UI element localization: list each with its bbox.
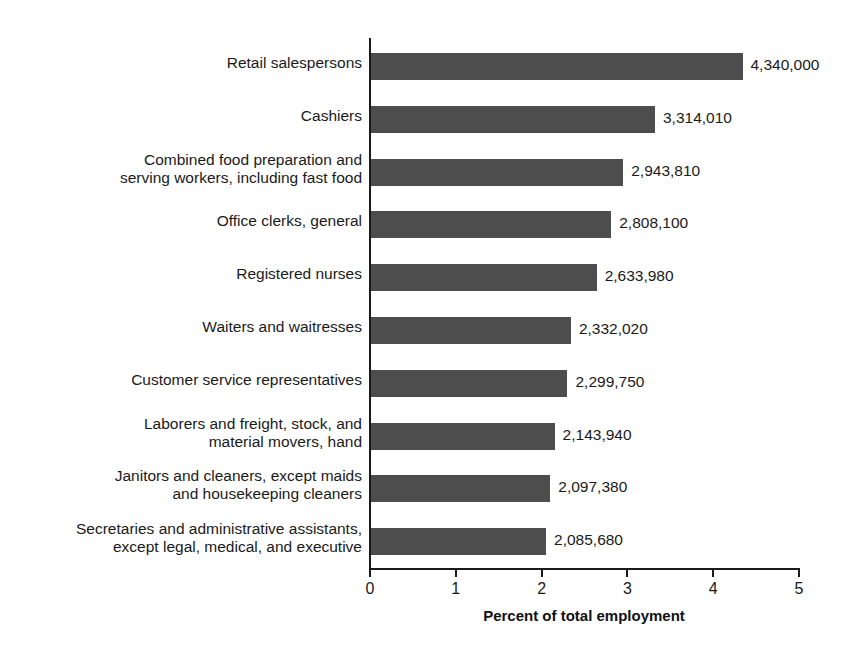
x-axis-tick-label: 0 [355, 580, 385, 598]
bar [371, 53, 743, 80]
bar [371, 475, 550, 502]
category-label: Waiters and waitresses [0, 318, 362, 336]
bar-value-label: 2,943,810 [631, 162, 700, 180]
x-axis-tick-label: 5 [784, 580, 814, 598]
bar-row: Laborers and freight, stock, and materia… [0, 410, 865, 463]
x-axis-tick-mark [626, 568, 628, 577]
bar [371, 211, 611, 238]
x-axis-tick-label: 1 [441, 580, 471, 598]
bar [371, 264, 597, 291]
bar-row: Combined food preparation and serving wo… [0, 146, 865, 199]
category-label: Secretaries and administrative assistant… [0, 520, 362, 556]
bar-row: Office clerks, general2,808,100 [0, 198, 865, 251]
x-axis-tick-label: 4 [698, 580, 728, 598]
bar-row: Waiters and waitresses2,332,020 [0, 304, 865, 357]
x-axis-tick-mark [369, 568, 371, 577]
x-axis-tick-label: 3 [612, 580, 642, 598]
x-axis-tick-label: 2 [527, 580, 557, 598]
bar [371, 106, 655, 133]
category-label: Registered nurses [0, 265, 362, 283]
bar-value-label: 2,085,680 [554, 531, 623, 549]
bar-value-label: 2,332,020 [579, 320, 648, 338]
bar-value-label: 3,314,010 [663, 109, 732, 127]
bar-row: Retail salespersons4,340,000 [0, 40, 865, 93]
bar-value-label: 2,097,380 [558, 478, 627, 496]
bar-value-label: 2,143,940 [563, 426, 632, 444]
bar-value-label: 4,340,000 [751, 56, 820, 74]
bar [371, 423, 555, 450]
bar-chart: Retail salespersons4,340,000Cashiers3,31… [0, 0, 865, 655]
bar-row: Registered nurses2,633,980 [0, 251, 865, 304]
bar-row: Secretaries and administrative assistant… [0, 515, 865, 568]
bar [371, 370, 567, 397]
x-axis-line [369, 568, 798, 570]
category-label: Cashiers [0, 107, 362, 125]
x-axis-title: Percent of total employment [369, 607, 799, 624]
x-axis-tick-mark [798, 568, 800, 577]
category-label: Janitors and cleaners, except maids and … [0, 467, 362, 503]
category-label: Office clerks, general [0, 212, 362, 230]
bar-row: Janitors and cleaners, except maids and … [0, 462, 865, 515]
bar [371, 317, 571, 344]
category-label: Combined food preparation and serving wo… [0, 151, 362, 187]
category-label: Retail salespersons [0, 54, 362, 72]
category-label: Laborers and freight, stock, and materia… [0, 415, 362, 451]
bar-value-label: 2,633,980 [605, 267, 674, 285]
x-axis-tick-mark [541, 568, 543, 577]
bar-row: Customer service representatives2,299,75… [0, 357, 865, 410]
x-axis-tick-mark [455, 568, 457, 577]
bar-value-label: 2,808,100 [619, 214, 688, 232]
bar [371, 159, 623, 186]
bar-row: Cashiers3,314,010 [0, 93, 865, 146]
category-label: Customer service representatives [0, 371, 362, 389]
bar [371, 528, 546, 555]
x-axis-tick-mark [712, 568, 714, 577]
bar-value-label: 2,299,750 [575, 373, 644, 391]
